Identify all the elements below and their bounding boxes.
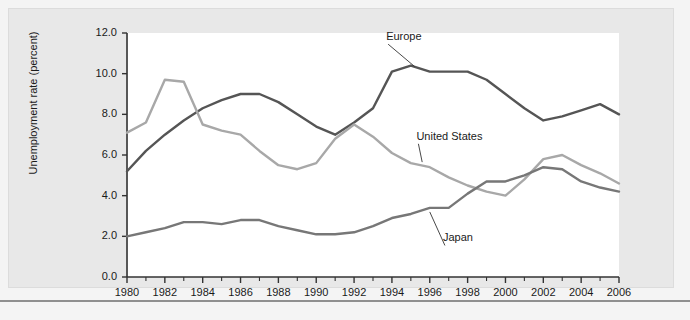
figure-container: Unemployment rate (percent) 0.02.04.06.0… [0, 0, 690, 320]
x-tick-label: 2002 [523, 286, 563, 298]
x-tick-label: 1988 [258, 286, 298, 298]
y-tick-label: 12.0 [83, 26, 117, 38]
leader-line [388, 44, 414, 66]
x-tick-label: 1982 [145, 286, 185, 298]
series-label-united-states: United States [416, 130, 482, 142]
data-series-group [127, 66, 619, 237]
x-tick-label: 1980 [107, 286, 147, 298]
leader-line [418, 144, 422, 162]
x-tick-label: 2006 [599, 286, 639, 298]
y-tick-label: 0.0 [83, 270, 117, 282]
series-label-japan: Japan [443, 231, 473, 243]
series-label-europe: Europe [386, 30, 421, 42]
chart-panel: Unemployment rate (percent) 0.02.04.06.0… [8, 8, 674, 288]
series-line-united-states [127, 80, 619, 196]
y-tick-label: 2.0 [83, 229, 117, 241]
x-tick-label: 1996 [410, 286, 450, 298]
x-tick-label: 1994 [372, 286, 412, 298]
x-tick-label: 1984 [183, 286, 223, 298]
x-tick-label: 1986 [221, 286, 261, 298]
annotation-leader-lines [388, 44, 445, 245]
bottom-divider-rule [0, 300, 690, 302]
x-tick-label: 1998 [448, 286, 488, 298]
x-tick-label: 1992 [334, 286, 374, 298]
axis-lines [127, 33, 619, 277]
y-tick-label: 6.0 [83, 148, 117, 160]
y-tick-label: 4.0 [83, 189, 117, 201]
x-tick-label: 2004 [561, 286, 601, 298]
x-tick-label: 2000 [485, 286, 525, 298]
y-tick-label: 8.0 [83, 107, 117, 119]
x-tick-label: 1990 [296, 286, 336, 298]
series-line-japan [127, 167, 619, 236]
y-tick-label: 10.0 [83, 67, 117, 79]
